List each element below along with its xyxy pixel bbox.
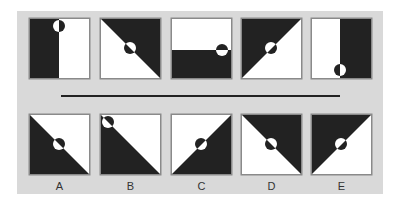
answer-label-b: B [121, 180, 141, 192]
split-circle-icon [195, 138, 207, 150]
question-figure-3 [171, 18, 232, 79]
puzzle-stage [0, 0, 398, 206]
split-circle-icon [265, 42, 277, 54]
answer-option-a[interactable] [29, 114, 90, 175]
split-circle-icon [216, 44, 228, 56]
question-figure-5 [311, 18, 372, 79]
split-circle-icon [53, 20, 65, 32]
question-figure-1 [29, 18, 90, 79]
question-figure-4 [241, 18, 302, 79]
split-circle-icon [102, 116, 114, 128]
question-figure-2 [100, 18, 161, 79]
answer-option-e[interactable] [311, 114, 372, 175]
split-circle-icon [124, 42, 136, 54]
answer-label-a: A [50, 180, 70, 192]
answer-option-b[interactable] [100, 114, 161, 175]
split-circle-icon [334, 64, 346, 76]
split-circle-icon [265, 138, 277, 150]
answer-label-d: D [262, 180, 282, 192]
split-circle-icon [335, 138, 347, 150]
answer-label-e: E [332, 180, 352, 192]
split-circle-icon [53, 138, 65, 150]
answer-label-c: C [192, 180, 212, 192]
answer-option-c[interactable] [171, 114, 232, 175]
answer-option-d[interactable] [241, 114, 302, 175]
